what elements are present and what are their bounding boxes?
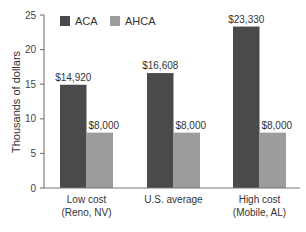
y-ticks: 0510152025 — [25, 10, 44, 194]
bars: $14,920$8,000$16,608$8,000$23,330$8,000 — [55, 14, 292, 188]
bar-value-label: $23,330 — [228, 14, 265, 25]
bar-value-label: $8,000 — [261, 120, 292, 131]
category-sublabel: (Reno, NV) — [61, 207, 111, 218]
y-axis-title: Thousands of dollars — [10, 50, 22, 153]
bar-ahca — [87, 133, 114, 188]
bar-value-label: $8,000 — [88, 120, 119, 131]
bar-ahca — [260, 133, 287, 188]
bar-chart: Thousands of dollars 0510152025 $14,920$… — [0, 0, 306, 232]
y-tick-label: 25 — [25, 10, 37, 21]
category-label: Low cost — [67, 194, 107, 205]
bar-ahca — [174, 133, 201, 188]
y-tick-label: 0 — [30, 183, 36, 194]
legend-label: AHCA — [125, 15, 156, 27]
bar-value-label: $8,000 — [175, 120, 206, 131]
category-labels: Low cost(Reno, NV)U.S. averageHigh cost(… — [61, 194, 286, 218]
bar-aca — [60, 85, 87, 188]
bar-aca — [147, 73, 174, 188]
legend-label: ACA — [75, 15, 98, 27]
legend: ACAAHCA — [60, 15, 156, 27]
y-tick-label: 5 — [30, 148, 36, 159]
legend-swatch-aca — [60, 16, 70, 26]
y-tick-label: 10 — [25, 113, 37, 124]
bar-aca — [233, 27, 260, 188]
category-label: High cost — [239, 194, 281, 205]
bar-value-label: $14,920 — [55, 72, 92, 83]
category-sublabel: (Mobile, AL) — [233, 207, 286, 218]
y-tick-label: 15 — [25, 79, 37, 90]
legend-swatch-ahca — [110, 16, 120, 26]
y-tick-label: 20 — [25, 44, 37, 55]
category-label: U.S. average — [144, 194, 203, 205]
bar-value-label: $16,608 — [142, 60, 179, 71]
